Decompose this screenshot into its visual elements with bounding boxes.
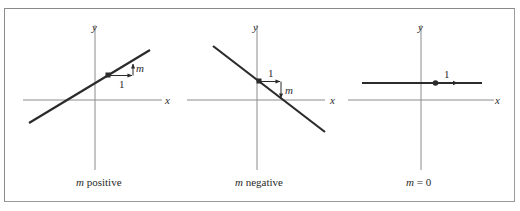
y-axis-label: y bbox=[91, 21, 97, 33]
run-label: 1 bbox=[119, 78, 125, 90]
panel-m-negative: x y 1 m m negative bbox=[187, 21, 335, 188]
negative-slope-line bbox=[213, 46, 325, 132]
run-label: 1 bbox=[444, 68, 450, 80]
point-marker bbox=[257, 79, 262, 84]
y-axis-label: y bbox=[417, 21, 423, 33]
caption-m-negative: m negative bbox=[235, 176, 283, 188]
rise-label: m bbox=[285, 84, 293, 96]
y-axis-label: y bbox=[252, 21, 258, 33]
slope-diagrams: x y 1 m m positive x y 1 m m negative x … bbox=[0, 0, 520, 211]
point-marker bbox=[106, 73, 111, 78]
run-arrow bbox=[453, 81, 458, 85]
panel-m-positive: x y 1 m m positive bbox=[23, 21, 170, 188]
caption-m-zero: m = 0 bbox=[406, 176, 432, 188]
x-axis-label: x bbox=[329, 94, 335, 106]
positive-slope-line bbox=[29, 50, 150, 123]
x-axis-label: x bbox=[494, 94, 500, 106]
x-axis-label: x bbox=[164, 94, 170, 106]
caption-m-positive: m positive bbox=[76, 176, 122, 188]
run-label: 1 bbox=[268, 67, 274, 79]
point-marker bbox=[433, 80, 439, 86]
panel-m-zero: x y 1 m = 0 bbox=[348, 21, 500, 188]
rise-label: m bbox=[136, 62, 144, 74]
